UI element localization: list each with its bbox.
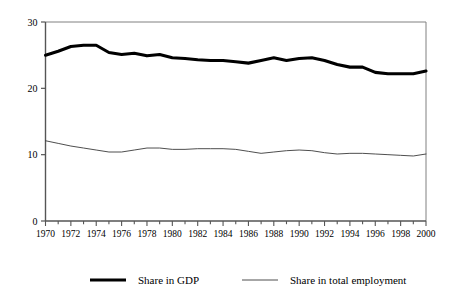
y-tick-label: 0 — [33, 216, 38, 227]
series-line-share-in-gdp — [46, 45, 427, 74]
x-axis-ticks: 1970197219741976197819801982198419861988… — [36, 221, 436, 239]
x-tick-label: 1984 — [214, 229, 233, 239]
x-tick-label: 1982 — [188, 229, 207, 239]
x-tick-label: 2000 — [417, 229, 436, 239]
y-tick-label: 30 — [28, 17, 38, 28]
x-tick-label: 1986 — [239, 229, 258, 239]
y-tick-label: 20 — [28, 83, 38, 94]
x-tick-label: 1972 — [61, 229, 80, 239]
x-tick-label: 1974 — [87, 229, 106, 239]
y-axis-ticks: 0102030 — [28, 17, 46, 227]
x-tick-label: 1996 — [366, 229, 385, 239]
x-tick-label: 1994 — [340, 229, 359, 239]
y-tick-label: 10 — [28, 149, 38, 160]
x-tick-label: 1998 — [391, 229, 410, 239]
plot-frame — [46, 22, 427, 221]
legend-label: Share in GDP — [138, 274, 199, 286]
x-tick-label: 1976 — [112, 229, 131, 239]
x-tick-label: 1980 — [163, 229, 182, 239]
x-tick-label: 1990 — [290, 229, 309, 239]
data-series-group — [46, 45, 427, 156]
x-tick-label: 1978 — [137, 229, 156, 239]
line-chart: 0102030 19701972197419761978198019821984… — [0, 0, 453, 299]
chart-legend: Share in GDPShare in total employment — [90, 274, 406, 286]
x-tick-label: 1992 — [315, 229, 334, 239]
series-line-share-in-total-employment — [46, 141, 427, 156]
chart-figure: 0102030 19701972197419761978198019821984… — [0, 0, 453, 299]
x-tick-label: 1988 — [264, 229, 283, 239]
legend-label: Share in total employment — [290, 274, 406, 286]
x-tick-label: 1970 — [36, 229, 55, 239]
